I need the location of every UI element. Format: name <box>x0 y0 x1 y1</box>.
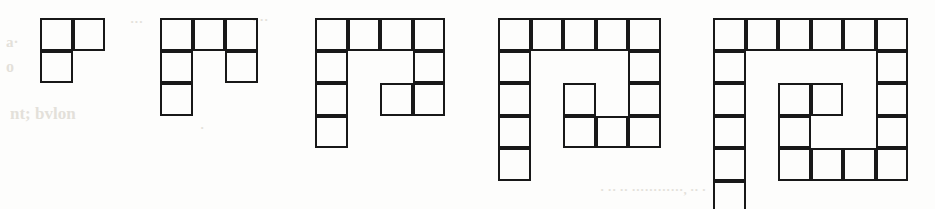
polyomino-cell <box>225 51 258 84</box>
polyomino-cell <box>843 148 876 181</box>
polyomino-cell <box>778 148 811 181</box>
polyomino-cell <box>315 51 348 84</box>
polyomino-cell <box>876 116 909 149</box>
polyomino-grid <box>713 18 908 209</box>
polyomino-cell <box>380 83 413 116</box>
polyomino-cell <box>843 18 876 51</box>
polyomino-cell <box>811 148 844 181</box>
polyomino-cell <box>315 83 348 116</box>
polyomino-figure-4 <box>498 18 661 181</box>
polyomino-grid <box>40 18 105 83</box>
polyomino-cell <box>380 18 413 51</box>
polyomino-cell <box>876 148 909 181</box>
polyomino-cell <box>563 83 596 116</box>
polyomino-cell <box>498 18 531 51</box>
polyomino-cell <box>225 18 258 51</box>
polyomino-cell <box>315 18 348 51</box>
polyomino-grid <box>315 18 445 148</box>
polyomino-cell <box>596 18 629 51</box>
polyomino-cell <box>778 116 811 149</box>
polyomino-cell <box>876 51 909 84</box>
polyomino-cell <box>876 18 909 51</box>
polyomino-cell <box>498 148 531 181</box>
polyomino-cell <box>713 181 746 210</box>
polyomino-cell <box>315 116 348 149</box>
polyomino-cell <box>193 18 226 51</box>
polyomino-grid <box>160 18 258 116</box>
polyomino-cell <box>498 116 531 149</box>
polyomino-cell <box>746 18 779 51</box>
polyomino-cell <box>713 148 746 181</box>
polyomino-cell <box>811 83 844 116</box>
polyomino-cell <box>713 83 746 116</box>
polyomino-cell <box>628 83 661 116</box>
polyomino-cell <box>876 83 909 116</box>
polyomino-cell <box>413 18 446 51</box>
polyomino-cell <box>778 18 811 51</box>
polyomino-cell <box>596 116 629 149</box>
polyomino-cell <box>160 83 193 116</box>
polyomino-figure-strip <box>0 0 935 209</box>
polyomino-cell <box>160 51 193 84</box>
polyomino-cell <box>413 51 446 84</box>
polyomino-cell <box>563 116 596 149</box>
polyomino-cell <box>713 51 746 84</box>
polyomino-cell <box>563 18 596 51</box>
polyomino-cell <box>413 83 446 116</box>
polyomino-figure-5 <box>713 18 908 209</box>
polyomino-cell <box>713 18 746 51</box>
polyomino-cell <box>713 116 746 149</box>
polyomino-cell <box>40 18 73 51</box>
polyomino-cell <box>811 18 844 51</box>
polyomino-cell <box>628 18 661 51</box>
polyomino-cell <box>40 51 73 84</box>
polyomino-cell <box>628 116 661 149</box>
polyomino-cell <box>73 18 106 51</box>
polyomino-grid <box>498 18 661 181</box>
polyomino-cell <box>160 18 193 51</box>
polyomino-figure-3 <box>315 18 445 148</box>
polyomino-cell <box>348 18 381 51</box>
polyomino-cell <box>498 83 531 116</box>
polyomino-cell <box>628 51 661 84</box>
polyomino-figure-1 <box>40 18 105 83</box>
polyomino-cell <box>778 83 811 116</box>
polyomino-cell <box>531 18 564 51</box>
polyomino-figure-2 <box>160 18 258 116</box>
polyomino-cell <box>498 51 531 84</box>
